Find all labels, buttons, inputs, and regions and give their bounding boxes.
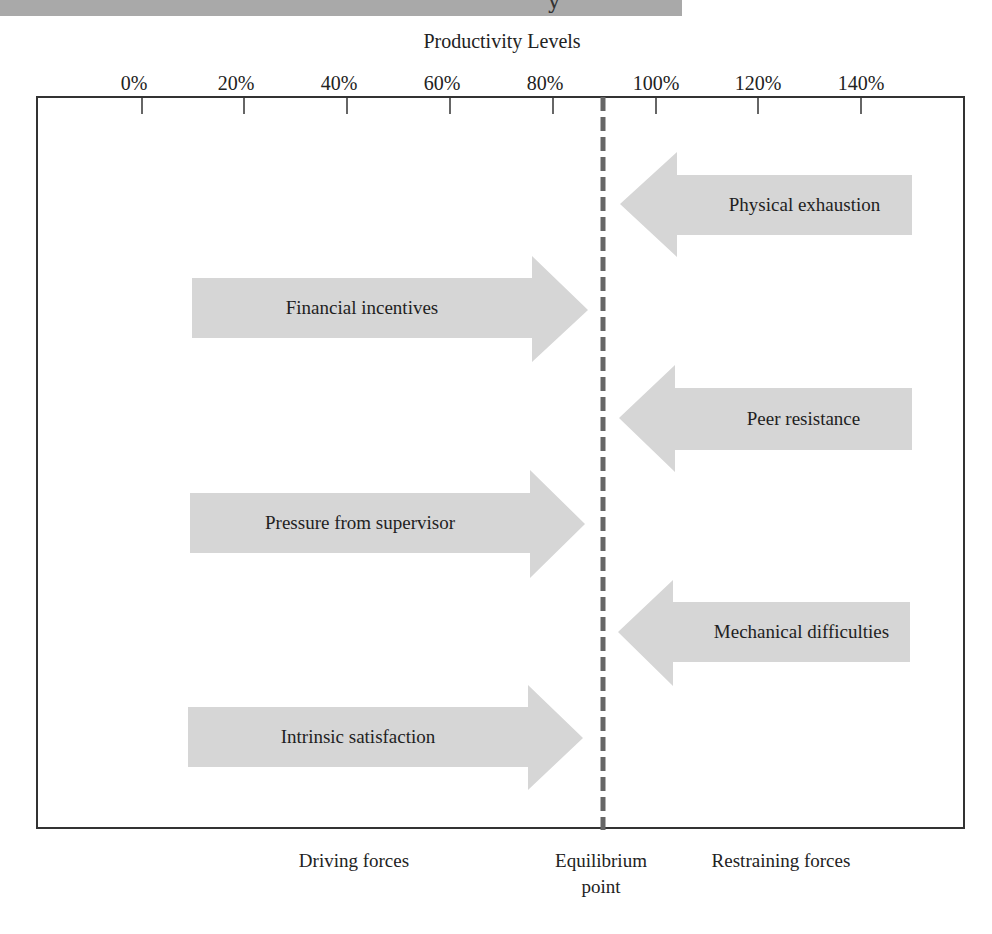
axis-ticks bbox=[142, 97, 861, 114]
driving-force-label: Pressure from supervisor bbox=[265, 512, 455, 534]
driving-forces-label: Driving forces bbox=[299, 850, 409, 872]
equilibrium-label: Equilibrium point bbox=[555, 850, 647, 898]
diagram-canvas bbox=[0, 0, 992, 934]
driving-force-label: Financial incentives bbox=[286, 297, 438, 319]
equilibrium-label-line1: Equilibrium bbox=[555, 850, 647, 872]
force-arrows bbox=[188, 152, 912, 790]
driving-force-label: Intrinsic satisfaction bbox=[281, 726, 436, 748]
equilibrium-label-line2: point bbox=[555, 876, 647, 898]
restraining-force-label: Physical exhaustion bbox=[729, 194, 880, 216]
restraining-force-label: Peer resistance bbox=[747, 408, 860, 430]
restraining-force-label: Mechanical difficulties bbox=[714, 621, 889, 643]
force-field-diagram: y Productivity Levels 0%20%40%60%80%100%… bbox=[0, 0, 992, 934]
restraining-forces-label: Restraining forces bbox=[712, 850, 851, 872]
